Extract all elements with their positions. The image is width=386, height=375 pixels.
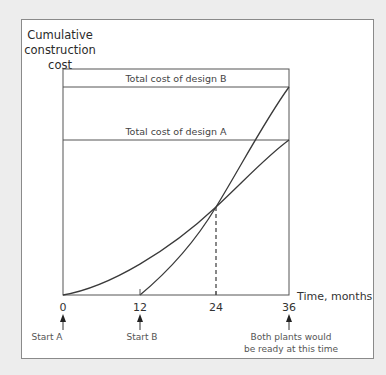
curve-design-b xyxy=(140,87,289,295)
chart-plot: Total cost of design B Total cost of des… xyxy=(0,0,386,375)
curve-design-a xyxy=(63,140,289,295)
total-cost-b-label: Total cost of design B xyxy=(124,73,226,84)
total-cost-a-label: Total cost of design A xyxy=(124,126,227,137)
tick-label-12: 12 xyxy=(133,301,147,314)
arrow-up-icon xyxy=(60,314,66,330)
arrow-up-icon xyxy=(137,314,143,330)
tick-label-36: 36 xyxy=(282,301,296,314)
start-b-label: Start B xyxy=(126,332,157,342)
both-ready-label-line1: Both plants would xyxy=(250,332,331,342)
both-ready-label-line2: be ready at this time xyxy=(244,344,339,354)
x-axis-title: Time, months xyxy=(296,290,373,303)
start-a-label: Start A xyxy=(31,332,63,342)
tick-label-24: 24 xyxy=(209,301,223,314)
arrow-up-icon xyxy=(286,314,292,330)
tick-label-0: 0 xyxy=(60,301,67,314)
